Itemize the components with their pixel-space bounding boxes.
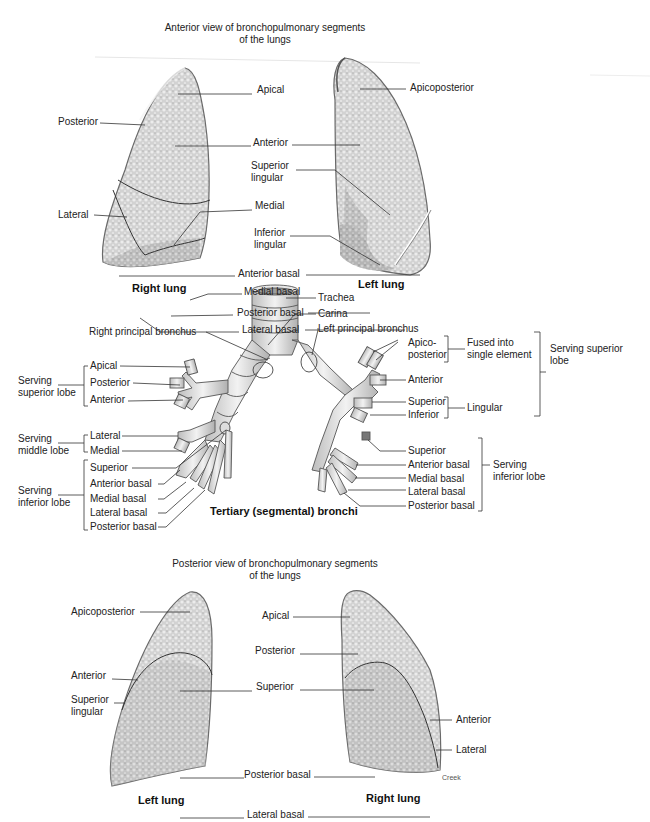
label-post-posterior-basal: Posterior basal	[244, 769, 311, 781]
label-left-apicoposterior: Apico-posterior	[408, 337, 448, 361]
caption-tertiary-bronchi: Tertiary (segmental) bronchi	[210, 505, 358, 517]
label-left-posterior-basal: Posterior basal	[408, 500, 475, 512]
title-line-1: Anterior view of bronchopulmonary segmen…	[160, 22, 370, 34]
label-left-serving-inferior-lobe: Serving inferior lobe	[493, 459, 553, 483]
posterior-right-lung	[341, 591, 440, 773]
title-line-2: of the lungs	[160, 570, 390, 582]
label-post-lateral-basal: Lateral basal	[247, 809, 304, 821]
label-apical: Apical	[257, 84, 284, 96]
label-apicoposterior: Apicoposterior	[410, 82, 474, 94]
label-right-medial: Medial	[90, 445, 119, 457]
label-post-apicoposterior: Apicoposterior	[71, 606, 135, 618]
label-trachea: Trachea	[318, 292, 354, 304]
label-fused-single-element: Fused into single element	[467, 337, 537, 361]
label-medial: Medial	[255, 200, 284, 212]
anterior-right-lung	[102, 68, 210, 267]
label-right-apical: Apical	[90, 360, 117, 372]
label-right-posterior-basal: Posterior basal	[90, 521, 157, 533]
label-superior-lingular: Superior lingular	[251, 160, 293, 184]
label-posterior-basal: Posterior basal	[237, 307, 304, 319]
anterior-view-title: Anterior view of bronchopulmonary segmen…	[160, 22, 370, 46]
posterior-left-lung	[111, 592, 212, 786]
label-post-posterior: Posterior	[255, 645, 295, 657]
label-lateral: Lateral	[58, 209, 89, 221]
caption-right-lung-posterior: Right lung	[366, 792, 420, 804]
label-right-lateral: Lateral	[90, 430, 121, 442]
label-left-medial-basal: Medial basal	[408, 473, 464, 485]
caption-right-lung-anterior: Right lung	[132, 282, 186, 294]
label-post-superior-lingular: Superior lingular	[71, 694, 116, 718]
faint-rule	[95, 57, 420, 63]
label-lateral-basal: Lateral basal	[242, 324, 299, 336]
label-left-anterior: Anterior	[408, 374, 443, 386]
label-anterior: Anterior	[253, 137, 288, 149]
posterior-view-title: Posterior view of bronchopulmonary segme…	[160, 558, 390, 582]
caption-left-lung-posterior: Left lung	[138, 794, 184, 806]
label-right-posterior: Posterior	[90, 377, 130, 389]
label-left-anterior-basal: Anterior basal	[408, 459, 470, 471]
label-inferior-lingular: Inferior lingular	[254, 227, 296, 251]
title-line-1: Posterior view of bronchopulmonary segme…	[160, 558, 390, 570]
label-post-apical: Apical	[262, 610, 289, 622]
label-post-anterior-right: Anterior	[456, 714, 491, 726]
label-anterior-basal: Anterior basal	[238, 268, 300, 280]
label-right-serving-superior-lobe: Serving superior lobe	[18, 375, 80, 399]
label-right-anterior-basal: Anterior basal	[90, 478, 152, 490]
label-post-superior: Superior	[256, 681, 294, 693]
label-left-serving-superior-lobe: Serving superior lobe	[550, 343, 630, 367]
label-right-inf-superior: Superior	[90, 462, 128, 474]
label-post-anterior-left: Anterior	[71, 670, 106, 682]
title-line-2: of the lungs	[160, 34, 370, 46]
label-left-inf-superior: Superior	[408, 445, 446, 457]
label-posterior: Posterior	[58, 116, 98, 128]
label-left-lingular-superior: Superior	[408, 396, 446, 408]
illustrator-credit: Creek	[442, 774, 461, 781]
label-lingular: Lingular	[467, 402, 503, 414]
label-left-principal-bronchus: Left principal bronchus	[318, 323, 419, 335]
label-right-anterior: Anterior	[90, 394, 125, 406]
label-left-lateral-basal: Lateral basal	[408, 486, 465, 498]
label-left-lingular-inferior: Inferior	[408, 409, 439, 421]
label-right-lateral-basal: Lateral basal	[90, 507, 147, 519]
caption-left-lung-anterior: Left lung	[358, 278, 404, 290]
label-carina: Carina	[318, 308, 347, 320]
label-post-lateral: Lateral	[456, 744, 487, 756]
label-medial-basal: Medial basal	[244, 286, 300, 298]
label-right-serving-middle-lobe: Serving middle lobe	[18, 433, 80, 457]
label-right-medial-basal: Medial basal	[90, 493, 146, 505]
label-right-principal-bronchus: Right principal bronchus	[89, 326, 196, 338]
label-right-serving-inferior-lobe: Serving inferior lobe	[18, 485, 80, 509]
